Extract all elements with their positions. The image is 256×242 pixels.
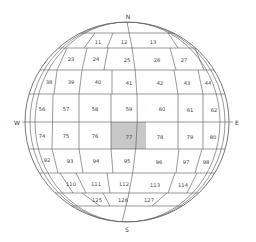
cell-127: 127 (144, 197, 154, 203)
cell-25: 25 (124, 57, 131, 63)
cell-92: 92 (44, 157, 51, 163)
cell-12: 12 (121, 39, 128, 45)
cell-57: 57 (63, 106, 70, 112)
cell-125: 125 (92, 197, 102, 203)
cell-labels: 11 12 13 23 24 25 26 27 38 39 40 41 42 4… (39, 39, 218, 203)
cell-79: 79 (187, 134, 194, 140)
cell-114: 114 (178, 182, 189, 188)
cell-76: 76 (92, 133, 99, 139)
cell-126: 126 (118, 197, 128, 203)
cell-111: 111 (91, 181, 101, 187)
cell-97: 97 (183, 159, 190, 165)
cell-40: 40 (95, 79, 102, 85)
cell-93: 93 (67, 158, 74, 164)
north-label: N (126, 13, 131, 20)
cell-24: 24 (93, 56, 100, 62)
cell-94: 94 (93, 158, 100, 164)
cell-59: 59 (126, 106, 133, 112)
cell-60: 60 (159, 106, 166, 112)
cell-58: 58 (92, 106, 99, 112)
cell-56: 56 (39, 106, 46, 112)
cell-38: 38 (46, 79, 53, 85)
cell-23: 23 (68, 56, 75, 62)
cell-62: 62 (211, 107, 218, 113)
cell-42: 42 (157, 80, 164, 86)
cell-95: 95 (124, 158, 131, 164)
cell-113: 113 (150, 182, 160, 188)
cell-74: 74 (39, 133, 46, 139)
cell-61: 61 (187, 107, 194, 113)
cell-110: 110 (66, 181, 76, 187)
west-label: W (14, 119, 20, 126)
east-label: E (235, 119, 239, 126)
cell-11: 11 (95, 39, 102, 45)
grid-lines (20, 22, 236, 222)
cell-96: 96 (156, 159, 163, 165)
cell-98: 98 (203, 159, 210, 165)
cell-26: 26 (154, 57, 161, 63)
cell-41: 41 (126, 80, 133, 86)
cell-43: 43 (184, 80, 191, 86)
cell-77: 77 (126, 134, 133, 140)
cell-80: 80 (210, 134, 217, 140)
globe-diagram: N S W E 11 12 13 23 24 25 26 27 38 39 40… (0, 0, 256, 242)
cell-44: 44 (205, 80, 212, 86)
cell-78: 78 (157, 134, 164, 140)
cell-39: 39 (68, 79, 75, 85)
cell-13: 13 (150, 39, 157, 45)
cell-112: 112 (119, 181, 129, 187)
cell-75: 75 (63, 133, 70, 139)
south-label: S (125, 226, 129, 233)
cell-27: 27 (181, 57, 188, 63)
